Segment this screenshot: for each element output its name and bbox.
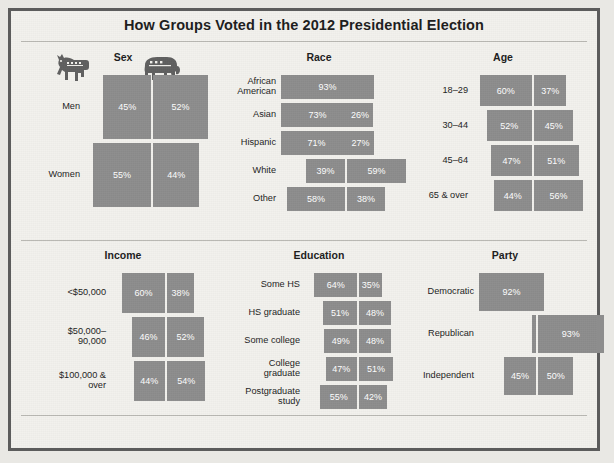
- chart-frame: How Groups Voted in the 2012 Presidentia…: [8, 8, 600, 451]
- row-label: Democratic: [415, 271, 479, 313]
- bar-democrat: 45%: [504, 357, 536, 395]
- bar-democrat: 64%: [314, 273, 357, 297]
- row-label: Other: [223, 185, 281, 213]
- chart-row: AfricanAmerican93%: [223, 73, 415, 101]
- row-label: Asian: [223, 101, 281, 129]
- row-label: Some college: [223, 327, 305, 355]
- bar-democrat: 71%: [281, 131, 352, 155]
- row-label: Men: [25, 73, 85, 141]
- row-label: HS graduate: [223, 299, 305, 327]
- chart-row: 30–4452%45%: [415, 108, 591, 143]
- chart-row: Hispanic71%27%: [223, 129, 415, 157]
- bar-republican: 54%: [167, 361, 205, 401]
- panel-title: Age: [415, 51, 591, 63]
- bar-republican: 26%: [347, 103, 373, 127]
- row-bars: 44%54%: [111, 359, 219, 403]
- bar-democrat: 45%: [103, 75, 151, 139]
- bar-democrat: 73%: [281, 103, 354, 127]
- chart-row: Postgraduatestudy55%42%: [223, 383, 415, 411]
- title-divider: [21, 41, 587, 42]
- chart-row: Women55%44%: [25, 141, 221, 209]
- bar-republican: 38%: [347, 187, 385, 211]
- chart-row: Some HS64%35%: [223, 271, 415, 299]
- bar-democrat: 55%: [320, 385, 357, 409]
- row-bars: 44%56%: [473, 178, 591, 213]
- chart-row: Some college49%48%: [223, 327, 415, 355]
- row-bars: 92%: [479, 271, 593, 313]
- row-label: <$50,000: [25, 271, 111, 315]
- bar-democrat: 39%: [306, 159, 345, 183]
- chart-row: Republican93%: [415, 313, 595, 355]
- bar-republican: 38%: [167, 273, 194, 313]
- bar-republican: 48%: [359, 329, 391, 353]
- bar-democrat: 60%: [122, 273, 165, 313]
- bar-republican: 59%: [347, 159, 406, 183]
- bar-republican: 35%: [359, 273, 382, 297]
- panel-rows: 18–2960%37%30–4452%45%45–6447%51%65 & ov…: [415, 73, 591, 213]
- chart-row: $100,000 &over44%54%: [25, 359, 221, 403]
- row-bars: 60%37%: [473, 73, 591, 108]
- page-title: How Groups Voted in the 2012 Presidentia…: [11, 17, 597, 33]
- row-bars: 60%38%: [111, 271, 219, 315]
- row-bars: 45%52%: [85, 73, 217, 141]
- bar-republican: 37%: [534, 75, 566, 106]
- bar-republican: [538, 273, 543, 311]
- row-bars: 93%: [479, 313, 593, 355]
- bar-democrat: 44%: [494, 180, 532, 211]
- chart-row: Independent45%50%: [415, 355, 595, 397]
- row-bars: 39%59%: [281, 157, 409, 185]
- panel-title: Party: [415, 249, 595, 261]
- row-label: White: [223, 157, 281, 185]
- bar-democrat: 52%: [487, 110, 532, 141]
- bar-democrat: [532, 315, 536, 353]
- row-bars: 49%48%: [305, 327, 409, 355]
- bar-democrat: 44%: [134, 361, 165, 401]
- row-label: $50,000–90,000: [25, 315, 111, 359]
- source-divider: [21, 415, 587, 416]
- bar-democrat: 58%: [287, 187, 345, 211]
- row-bars: 64%35%: [305, 271, 409, 299]
- row-label: Postgraduatestudy: [223, 383, 305, 411]
- row-bars: 55%44%: [85, 141, 217, 209]
- row-bars: 71%27%: [281, 129, 409, 157]
- bar-republican: 44%: [153, 143, 199, 207]
- row-bars: 73%26%: [281, 101, 409, 129]
- bar-republican: 52%: [167, 317, 204, 357]
- bar-democrat: 93%: [281, 75, 374, 99]
- chart-row: $50,000–90,00046%52%: [25, 315, 221, 359]
- row-bars: 93%: [281, 73, 409, 101]
- row-label: Women: [25, 141, 85, 209]
- panel-title: Education: [223, 249, 415, 261]
- row-label: 18–29: [415, 73, 473, 108]
- bar-democrat: 55%: [93, 143, 151, 207]
- row-label: Republican: [415, 313, 479, 355]
- panel-rows: Men45%52%Women55%44%: [25, 73, 221, 209]
- bar-republican: 42%: [359, 385, 387, 409]
- row-label: Independent: [415, 355, 479, 397]
- row-bars: 51%48%: [305, 299, 409, 327]
- row-bars: 52%45%: [473, 108, 591, 143]
- bar-republican: 93%: [538, 315, 604, 353]
- chart-row: <$50,00060%38%: [25, 271, 221, 315]
- middle-divider: [21, 240, 587, 241]
- bar-republican: 27%: [347, 131, 374, 155]
- row-label: 30–44: [415, 108, 473, 143]
- bar-democrat: 60%: [480, 75, 532, 106]
- panel-rows: Democratic92%Republican93%Independent45%…: [415, 271, 595, 397]
- chart-row: Democratic92%: [415, 271, 595, 313]
- row-label: Some HS: [223, 271, 305, 299]
- bar-republican: 51%: [359, 357, 393, 381]
- bar-republican: 56%: [534, 180, 583, 211]
- row-bars: 47%51%: [473, 143, 591, 178]
- bar-republican: 50%: [538, 357, 573, 395]
- row-label: AfricanAmerican: [223, 73, 281, 101]
- bar-republican: 45%: [534, 110, 573, 141]
- bar-democrat: 92%: [479, 273, 544, 311]
- row-bars: 46%52%: [111, 315, 219, 359]
- bar-republican: [347, 75, 353, 99]
- chart-row: 45–6447%51%: [415, 143, 591, 178]
- bar-republican: 51%: [534, 145, 579, 176]
- chart-row: 65 & over44%56%: [415, 178, 591, 213]
- bar-democrat: 49%: [324, 329, 357, 353]
- bar-democrat: 47%: [491, 145, 532, 176]
